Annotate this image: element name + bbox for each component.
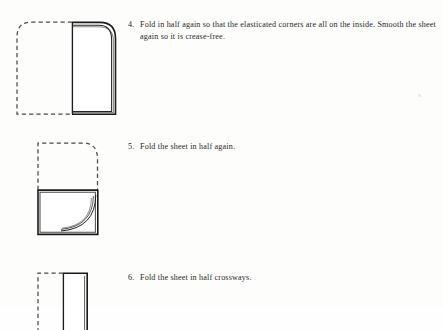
step-5-text: Fold the sheet in half again. <box>140 141 440 153</box>
scan-artifact-speck <box>418 94 421 97</box>
sheet-fill-step-4 <box>72 22 115 114</box>
fold-diagram-step-5 <box>35 140 115 240</box>
step-4-text: Fold in half again so that the elasticat… <box>140 19 440 43</box>
dashed-outline-step-5 <box>38 143 98 190</box>
fold-diagram-step-4-svg <box>14 20 126 118</box>
dashed-outline-step-6 <box>38 273 63 330</box>
step-4-number: 4. <box>128 19 134 31</box>
instruction-step-5: 5. Fold the sheet in half again. <box>0 124 443 248</box>
step-5-number: 5. <box>128 141 134 153</box>
sheet-fill-step-6 <box>63 273 87 330</box>
fold-diagram-step-6-svg <box>35 270 115 330</box>
instruction-step-4: 4. Fold in half again so that the elasti… <box>0 0 443 124</box>
step-6-text: Fold the sheet in half crossways. <box>140 272 440 284</box>
step-6-number: 6. <box>128 272 134 284</box>
fold-diagram-step-5-svg <box>35 140 115 240</box>
fold-diagram-step-6 <box>35 270 115 330</box>
fold-diagram-step-4 <box>14 20 126 118</box>
instruction-step-6: 6. Fold the sheet in half crossways. <box>0 248 443 308</box>
dashed-outline-step-4 <box>17 22 72 114</box>
